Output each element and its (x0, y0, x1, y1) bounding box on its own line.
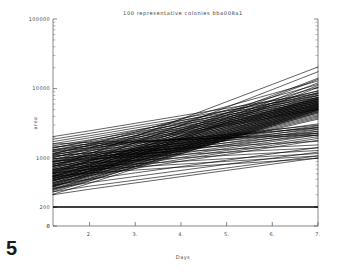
x-tick-label: 7. (315, 231, 321, 237)
x-axis-title: Days (176, 254, 190, 261)
x-tick-label: 6. (270, 231, 276, 237)
y-tick-label: 200 (39, 204, 50, 210)
figure-number-label: 5 (6, 238, 17, 258)
y-tick-label: 1000 (36, 155, 50, 161)
y-tick-label: 10000 (32, 85, 50, 91)
chart-plot: 100 representative colonies bba008a1 100… (0, 0, 339, 278)
y-origin-label: 0 (46, 223, 50, 229)
figure-container: 100 representative colonies bba008a1 100… (0, 0, 339, 278)
x-tick-label: 5. (224, 231, 230, 237)
y-tick-label: 100000 (29, 16, 50, 22)
x-tick-label: 2. (87, 231, 93, 237)
x-tick-label: 4. (178, 231, 184, 237)
y-axis-title: area (32, 117, 38, 130)
chart-title: 100 representative colonies bba008a1 (123, 10, 243, 17)
x-tick-label: 3. (132, 231, 138, 237)
